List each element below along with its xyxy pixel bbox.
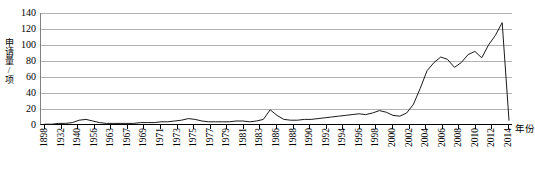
x-axis-tick-label: 1998 xyxy=(370,128,380,147)
x-axis-tick-label: 1971 xyxy=(155,128,165,147)
y-axis-tick-label: 20 xyxy=(26,104,36,114)
x-axis-tick-label: 2010 xyxy=(470,128,480,147)
x-axis-tick-labels: 1898193219401956196319671969197119731975… xyxy=(0,128,534,174)
x-axis-tick-label: 1981 xyxy=(238,128,248,147)
x-axis-tick-label: 1967 xyxy=(122,128,132,147)
x-axis-tick-label: 1983 xyxy=(254,128,264,147)
x-axis-tick-label: 1979 xyxy=(221,128,231,147)
x-axis-tick-label: 1940 xyxy=(72,128,82,147)
x-axis-tick-label: 1990 xyxy=(304,128,314,147)
x-axis-tick-label: 1969 xyxy=(138,128,148,147)
x-axis-tick-label: 2006 xyxy=(437,128,447,147)
x-axis-tick-label: 1977 xyxy=(205,128,215,147)
x-axis-title: 年份 xyxy=(515,124,535,135)
y-axis-tick-label: 140 xyxy=(21,8,36,18)
x-axis-tick-label: 1992 xyxy=(321,128,331,147)
y-axis-tick-label: 60 xyxy=(26,72,36,82)
x-axis-tick-label: 1898 xyxy=(39,128,49,147)
x-axis-tick-label: 2014 xyxy=(503,128,513,147)
x-axis-tick-label: 1996 xyxy=(354,128,364,147)
x-axis-tick-label: 1956 xyxy=(89,128,99,147)
data-series-line xyxy=(41,13,513,125)
y-axis-tick-label: 100 xyxy=(21,40,36,50)
x-axis-tick-label: 1986 xyxy=(271,128,281,147)
x-axis-tick-label: 1975 xyxy=(188,128,198,147)
x-axis-tick-label: 1973 xyxy=(172,128,182,147)
x-axis-tick-label: 1963 xyxy=(105,128,115,147)
x-axis-tick-label: 1932 xyxy=(56,128,66,147)
x-axis-tick-label: 2000 xyxy=(387,128,397,147)
y-axis-tick-label: 80 xyxy=(26,56,36,66)
y-axis-tick-label: 120 xyxy=(21,24,36,34)
x-axis-tick-label: 2012 xyxy=(486,128,496,147)
y-axis-tick-label: 40 xyxy=(26,88,36,98)
x-axis-tick-label: 2008 xyxy=(453,128,463,147)
x-axis-tick-label: 2002 xyxy=(404,128,414,147)
x-axis-tick-label: 2004 xyxy=(420,128,430,147)
plot-area xyxy=(40,13,512,125)
x-axis-tick-label: 1988 xyxy=(288,128,298,147)
x-axis-tick-label: 1994 xyxy=(337,128,347,147)
